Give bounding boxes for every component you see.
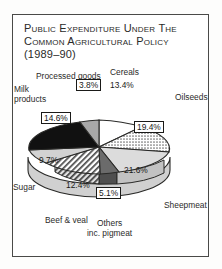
pie-label-others-line-2: inc. pigmeat: [87, 228, 132, 238]
pie-percent-processed-goods: 3.8%: [76, 79, 101, 91]
chart-title: Public Expenditure Under The Common Agri…: [24, 22, 204, 62]
pie-label-milk-products-line-1: Milk: [14, 84, 29, 94]
pie-percent-sugar: 9.7%: [39, 155, 58, 165]
pie-percent-sheepmeat: 21.6%: [124, 165, 148, 175]
pie-percent-cereals: 13.4%: [110, 80, 134, 90]
pie-percent-beef-veal: 12.4%: [66, 180, 90, 190]
pie-label-milk-products-line-2: products: [14, 94, 46, 104]
pie-percent-milk-products: 14.6%: [41, 112, 71, 124]
pie-chart-area: Processed goods Milk products Cereals Oi…: [12, 60, 209, 257]
pie-label-beef-veal: Beef & veal: [45, 215, 88, 225]
pie-label-sheepmeat: Sheepmeat: [164, 200, 207, 210]
pie-label-sugar: Sugar: [13, 182, 35, 192]
chart-title-line-2: Common Agricultural Policy: [24, 35, 204, 48]
chart-title-line-1: Public Expenditure Under The: [24, 22, 204, 35]
pie-label-oilseeds: Oilseeds: [175, 92, 208, 102]
pie-label-others-line-1: Others: [97, 218, 122, 228]
pie-percent-others: 5.1%: [96, 187, 121, 199]
pie-label-cereals: Cereals: [110, 67, 139, 77]
pie-percent-oilseeds: 19.4%: [134, 121, 164, 133]
